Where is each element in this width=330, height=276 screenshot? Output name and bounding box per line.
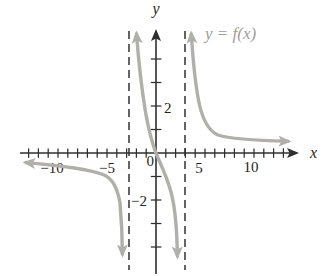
curve-right-branch (191, 34, 288, 141)
curve-left-branch (26, 163, 122, 255)
axis-labels: y x 0 −10 −5 5 10 2 −2 (40, 0, 317, 209)
origin-label: 0 (147, 153, 155, 169)
curve-equation-label: y = f(x) (203, 24, 256, 43)
function-graph-figure: y x 0 −10 −5 5 10 2 −2 y = f(x) (0, 0, 330, 276)
x-tick-label-5: 5 (195, 160, 203, 176)
graph-svg: y x 0 −10 −5 5 10 2 −2 y = f(x) (0, 0, 330, 276)
axes (20, 31, 297, 274)
y-tick-label-2: 2 (164, 100, 172, 116)
x-tick-label-minus10: −10 (40, 160, 63, 176)
y-tick-label-minus2: −2 (131, 193, 147, 209)
x-axis-label: x (309, 144, 317, 161)
x-tick-label-10: 10 (244, 159, 259, 175)
y-axis-label: y (150, 0, 160, 18)
function-curve (26, 34, 288, 256)
curve-middle-branch (137, 34, 178, 256)
